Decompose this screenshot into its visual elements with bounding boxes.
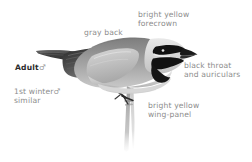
adult-text: Adult (15, 63, 39, 72)
branch (124, 86, 135, 152)
bill (180, 49, 198, 59)
first-winter-note: similar (14, 96, 41, 105)
label-bright-yellow-wing-panel: bright yellow wing-panel (148, 101, 199, 120)
perched-warbler-illustration (0, 0, 252, 162)
label-bright-yellow-forecrown: bright yellow forecrown (138, 10, 189, 29)
label-first-winter-male: 1st winter♂similar (14, 87, 61, 106)
label-gray-back: gray back (84, 28, 123, 37)
illustration-plate: bright yellow forecrown gray back black … (0, 0, 252, 162)
male-symbol-icon: ♂ (54, 87, 61, 96)
first-winter-text: 1st winter (14, 87, 54, 96)
label-adult-male: Adult♂ (15, 63, 46, 72)
label-black-throat-and-auriculars: black throat and auriculars (184, 61, 240, 80)
male-symbol-icon: ♂ (39, 63, 46, 72)
